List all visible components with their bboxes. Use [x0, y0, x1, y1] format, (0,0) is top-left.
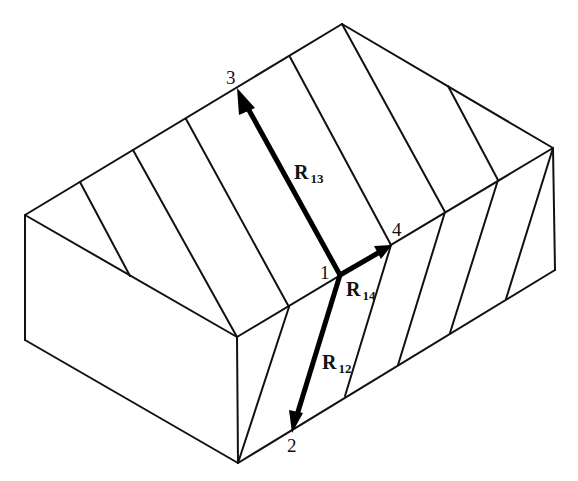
- right-corner-edge: [553, 148, 555, 270]
- front-corner-edge: [237, 337, 238, 463]
- roof-stripe: [133, 150, 237, 337]
- roof-stripe: [186, 119, 289, 307]
- vectors: [237, 88, 392, 433]
- point-label-2: 2: [287, 435, 297, 456]
- house-diagram: 3 4 1 2 R13 R14 R12: [0, 0, 578, 481]
- vector-r12: [297, 275, 340, 415]
- vector-label-r12: R12: [322, 351, 351, 376]
- wall-stripes: [238, 148, 553, 463]
- point-label-4: 4: [392, 219, 402, 240]
- point-label-3: 3: [226, 67, 236, 88]
- house-outline: [25, 24, 555, 463]
- labels: 3 4 1 2 R13 R14 R12: [226, 67, 402, 456]
- vector-label-r13: R13: [294, 161, 324, 186]
- arrowhead-r13-icon: [237, 88, 255, 115]
- left-wall-bottom-edge: [25, 340, 238, 463]
- wall-stripe: [238, 307, 289, 463]
- vector-r14: [340, 253, 378, 275]
- point-label-1: 1: [320, 262, 330, 283]
- vector-label-r14: R14: [346, 278, 376, 303]
- vector-r13: [245, 103, 340, 275]
- roof-ridge-edge: [25, 24, 342, 215]
